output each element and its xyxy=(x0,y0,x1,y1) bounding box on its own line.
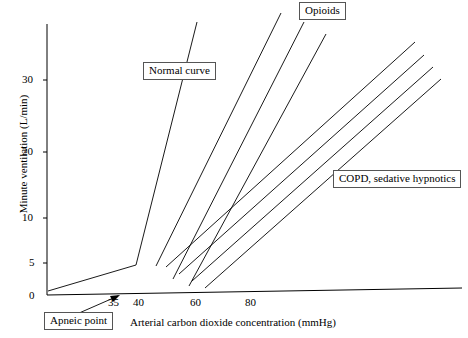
x-axis-title: Arterial carbon dioxide concentration (m… xyxy=(130,316,336,328)
annotation-copd: COPD, sedative hypnotics xyxy=(333,170,461,188)
x-axis-line xyxy=(47,288,462,295)
chart-svg xyxy=(0,0,468,338)
x-tick-label-35: 35 xyxy=(108,296,119,308)
figure-container: Opioids Normal curve COPD, sedative hypn… xyxy=(0,0,468,338)
opioid-curves xyxy=(156,13,326,286)
annotation-apneic-point: Apneic point xyxy=(44,312,113,330)
opioid-curve-1 xyxy=(156,13,281,266)
y-axis-title: Minute ventilation (L/min) xyxy=(17,79,29,229)
annotation-normal-curve: Normal curve xyxy=(143,62,216,80)
x-tick-label-40: 40 xyxy=(133,296,144,308)
x-tick-label-80: 80 xyxy=(245,296,256,308)
y-tick-label-0: 0 xyxy=(29,289,35,301)
axes-group xyxy=(43,24,462,295)
x-tick-label-60: 60 xyxy=(190,296,201,308)
opioid-curve-2 xyxy=(173,22,304,279)
copd-curve-2 xyxy=(179,55,424,274)
annotation-opioids: Opioids xyxy=(299,2,346,20)
y-tick-label-5: 5 xyxy=(29,256,35,268)
